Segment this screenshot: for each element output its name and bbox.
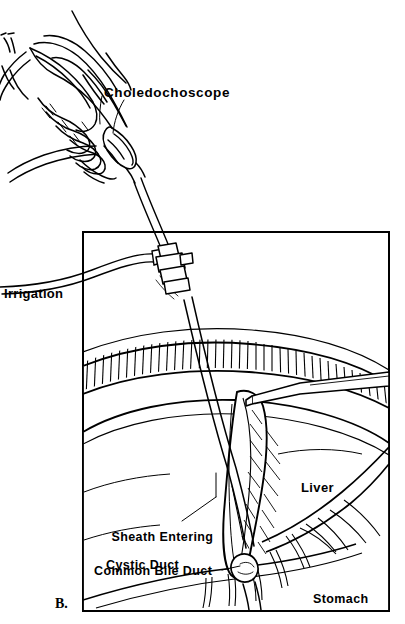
- label-stomach: Stomach: [313, 592, 369, 606]
- label-irrigation: Irrigation: [4, 287, 63, 302]
- label-common-bile-duct: Common Bile Duct: [94, 564, 212, 578]
- scope-insertion-shaft: [134, 178, 168, 248]
- label-sheath-entering-line1: Sheath Entering: [112, 530, 214, 544]
- panel-label-b: B.: [55, 596, 68, 612]
- label-sheath-entering-cystic-duct: Sheath Entering Cystic Duct: [96, 516, 213, 600]
- figure-illustration: Choledochoscope Irrigation Sheath Enteri…: [0, 0, 405, 624]
- label-liver: Liver: [301, 481, 334, 496]
- label-choledochoscope: Choledochoscope: [104, 85, 230, 100]
